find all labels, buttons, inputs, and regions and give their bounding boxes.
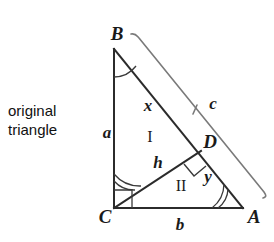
side-label-y: y <box>204 168 212 185</box>
side-label-a: a <box>103 124 112 141</box>
region-label-two: II <box>176 178 187 194</box>
region-label-one: I <box>147 129 152 145</box>
vertex-label-b: B <box>111 24 124 43</box>
side-label-c: c <box>209 95 217 112</box>
right-angle-square-d <box>184 164 206 176</box>
vertex-label-d: D <box>203 132 217 151</box>
vertex-label-c: C <box>99 207 112 226</box>
side-label-h: h <box>153 154 162 171</box>
caption-line-1: original <box>8 101 92 120</box>
bracket-hypotenuse-c <box>131 34 266 198</box>
side-label-x: x <box>144 97 153 114</box>
vertex-label-a: A <box>248 207 261 226</box>
caption-line-2: triangle <box>8 120 92 139</box>
diagram-canvas: original triangle B C A D a b c x h y I … <box>0 0 274 242</box>
side-label-b: b <box>176 216 185 233</box>
figure-caption: original triangle <box>8 101 92 139</box>
